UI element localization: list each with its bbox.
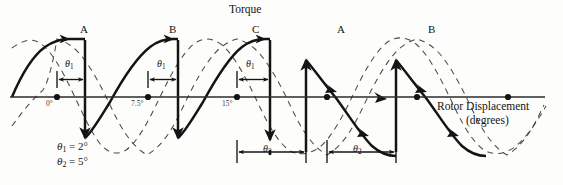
theta2-subscript-2: 2 (358, 148, 362, 156)
axis-dot-3 (324, 94, 330, 100)
theta2-annotation-2: θ2 (353, 144, 362, 156)
theta1-subscript-2: 1 (162, 63, 166, 71)
axis-dot-1 (145, 94, 151, 100)
x-tick-label-2: 15° (222, 100, 233, 108)
dashed-sine-phase-2 (12, 38, 546, 154)
chart-title: Torque (229, 3, 261, 15)
axis-dot-4 (414, 94, 420, 100)
peak-label-a2: A (337, 24, 345, 36)
peak-label-a1: A (80, 24, 88, 36)
theta1-subscript-3: 1 (251, 63, 255, 71)
peak-label-c1: C (252, 24, 259, 36)
legend-line-theta2: θ2 = 5° (57, 156, 88, 169)
peak-label-b2: B (428, 24, 435, 36)
theta1-brackets (57, 71, 270, 88)
legend-theta1-subscript: 1 (62, 145, 66, 154)
x-axis-title-line2: (degrees) (466, 114, 509, 126)
theta2-brackets (237, 140, 396, 163)
theta2-annotation-1: θ2 (263, 144, 272, 156)
legend-theta1-value: = 2° (69, 140, 88, 152)
x-tick-label-1: 7.5° (131, 100, 143, 108)
x-tick-label-0: 0° (46, 100, 53, 108)
axis-dot-0 (54, 94, 60, 100)
theta2-subscript-1: 2 (268, 148, 272, 156)
torque-diagram-figure: Torque A B C A B 0° 7.5° 15° θ1 θ1 θ1 θ2… (0, 0, 563, 185)
theta1-annotation-1: θ1 (65, 59, 74, 71)
theta1-annotation-2: θ1 (157, 59, 166, 71)
peak-label-b1: B (169, 24, 176, 36)
theta1-subscript-1: 1 (70, 63, 74, 71)
legend-theta2-subscript: 2 (62, 160, 66, 169)
theta1-annotation-3: θ1 (246, 59, 255, 71)
axis-dot-2 (234, 94, 240, 100)
legend-line-theta1: θ1 = 2° (57, 141, 88, 154)
legend-theta2-value: = 5° (69, 155, 88, 167)
x-axis-title-line1: Rotor Displacement (437, 100, 529, 112)
